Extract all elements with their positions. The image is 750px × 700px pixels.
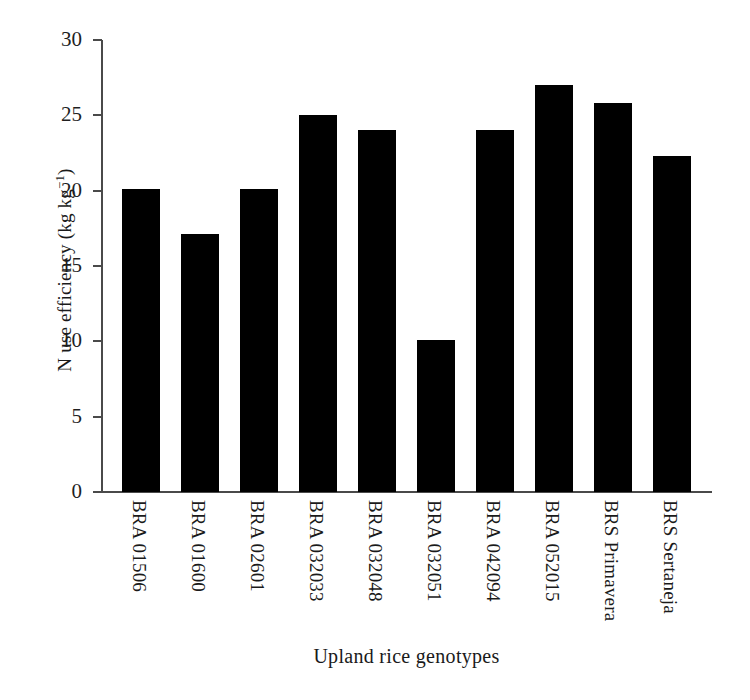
- x-tick-label: BRA 032051: [424, 500, 444, 660]
- bar[interactable]: [299, 115, 337, 492]
- bar[interactable]: [476, 130, 514, 492]
- x-tick-label: BRA 032048: [365, 500, 385, 660]
- y-tick-label: 20: [0, 180, 82, 201]
- x-tick-label: BRA 01506: [129, 500, 149, 660]
- x-tick-label: BRA 042094: [483, 500, 503, 660]
- y-tick-label: 5: [0, 406, 82, 427]
- bars-layer: [101, 40, 712, 492]
- bar[interactable]: [653, 156, 691, 492]
- x-tick-label: BRA 052015: [542, 500, 562, 660]
- x-tick-label: BRA 032033: [306, 500, 326, 660]
- y-tick-label: 30: [0, 29, 82, 50]
- y-axis-title-tail: ): [54, 168, 75, 175]
- x-tick-label: BRA 02601: [247, 500, 267, 660]
- x-axis-title: Upland rice genotypes: [101, 645, 712, 668]
- bar[interactable]: [417, 340, 455, 492]
- x-tick-label: BRA 01600: [188, 500, 208, 660]
- bar-chart-figure: N use efficiency (kg kg−1) 051015202530 …: [0, 0, 750, 700]
- x-tick-label: BRS Primavera: [601, 500, 621, 660]
- bar[interactable]: [594, 103, 632, 492]
- y-tick-label: 10: [0, 330, 82, 351]
- bar[interactable]: [181, 234, 219, 492]
- y-tick-label: 0: [0, 481, 82, 502]
- y-tick-label: 25: [0, 104, 82, 125]
- bar[interactable]: [358, 130, 396, 492]
- bar[interactable]: [240, 189, 278, 492]
- x-tick-label: BRS Sertaneja: [660, 500, 680, 660]
- bar[interactable]: [535, 85, 573, 492]
- y-tick-label: 15: [0, 255, 82, 276]
- bar[interactable]: [122, 189, 160, 492]
